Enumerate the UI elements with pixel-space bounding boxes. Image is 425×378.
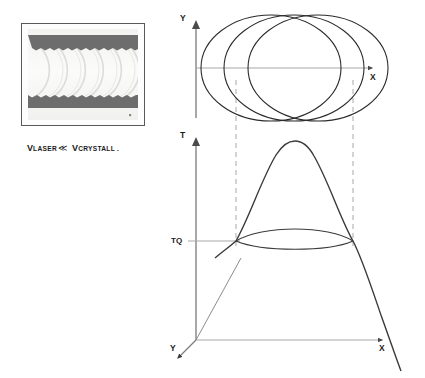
depth-projection-ray <box>196 258 241 340</box>
melt-pool-lens <box>236 229 353 249</box>
lens-lower-arc <box>236 241 353 249</box>
lower-x-axis-label: X <box>379 344 385 353</box>
tq-threshold-label: TQ <box>171 237 183 245</box>
temperature-profile-curve <box>215 141 401 371</box>
plots-vector-layer <box>0 0 425 378</box>
lower-t-axis-label: T <box>180 131 185 140</box>
dashed-guides <box>236 80 353 246</box>
lens-upper-arc <box>236 229 353 241</box>
figure-root: VLASER≪VCRYSTALL . <box>0 0 425 378</box>
lower-y-depth-axis-label: Y <box>170 344 176 353</box>
upper-y-axis-label: Y <box>180 14 186 23</box>
upper-x-axis-label: X <box>370 73 376 82</box>
lower-y-depth-axis <box>178 340 196 358</box>
